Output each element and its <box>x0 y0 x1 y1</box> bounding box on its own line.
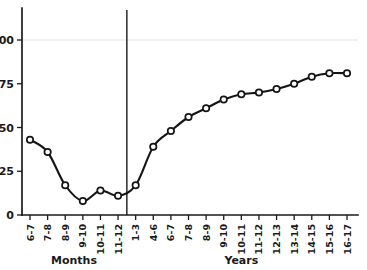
x-tick-label: 8-9 <box>201 224 212 241</box>
x-tick-label: 13-14 <box>289 224 300 255</box>
group-label-months: Months <box>51 254 97 267</box>
x-tick-label: 15-16 <box>324 224 335 255</box>
data-point-marker <box>27 137 33 143</box>
x-tick-label: 10-11 <box>236 224 247 254</box>
group-labels: MonthsYears <box>51 254 259 267</box>
data-point-marker <box>344 70 350 76</box>
data-point-marker <box>132 182 138 188</box>
y-tick-label: 0 <box>6 209 14 222</box>
x-tick-labels: 6-77-88-99-1010-1111-121-34-66-77-88-99-… <box>25 224 353 255</box>
x-tick-label: 6-7 <box>165 224 176 241</box>
x-tick-label: 16-17 <box>342 224 353 254</box>
x-tick-label: 4-6 <box>148 224 159 242</box>
x-tick-label: 6-7 <box>25 224 36 241</box>
x-tick-label: 11-12 <box>113 224 124 254</box>
x-tick-label: 9-10 <box>218 224 229 248</box>
data-point-marker <box>150 144 156 150</box>
x-tick-label: 7-8 <box>183 224 194 242</box>
group-label-years: Years <box>223 254 258 267</box>
data-point-marker <box>326 70 332 76</box>
data-point-marker <box>185 114 191 120</box>
x-tick-label: 10-11 <box>95 224 106 254</box>
data-point-marker <box>256 89 262 95</box>
data-point-marker <box>115 193 121 199</box>
x-axis <box>22 215 358 220</box>
data-point-marker <box>62 182 68 188</box>
line-chart: 0255075100 6-77-88-99-1010-1111-121-34-6… <box>0 0 367 270</box>
data-point-markers <box>27 70 350 204</box>
data-point-marker <box>203 105 209 111</box>
x-tick-label: 8-9 <box>60 224 71 241</box>
fitted-curve <box>30 73 347 201</box>
y-tick-label: 25 <box>0 165 14 178</box>
data-point-marker <box>44 149 50 155</box>
data-point-marker <box>273 86 279 92</box>
data-point-marker <box>168 128 174 134</box>
y-tick-label: 75 <box>0 78 14 91</box>
x-tick-label: 11-12 <box>253 224 264 254</box>
data-point-marker <box>291 81 297 87</box>
chart-container: 0255075100 6-77-88-99-1010-1111-121-34-6… <box>0 0 367 270</box>
data-point-marker <box>309 74 315 80</box>
data-point-marker <box>238 91 244 97</box>
y-tick-label: 50 <box>0 122 14 135</box>
y-axis: 0255075100 <box>0 8 22 222</box>
data-point-marker <box>97 187 103 193</box>
y-tick-label: 100 <box>0 34 14 47</box>
data-point-marker <box>80 198 86 204</box>
x-tick-label: 14-15 <box>306 224 317 254</box>
curve-path <box>30 73 347 201</box>
x-tick-label: 9-10 <box>77 224 88 248</box>
x-tick-label: 7-8 <box>42 224 53 242</box>
x-tick-label: 1-3 <box>130 224 141 241</box>
data-point-marker <box>221 96 227 102</box>
x-tick-label: 12-13 <box>271 224 282 254</box>
